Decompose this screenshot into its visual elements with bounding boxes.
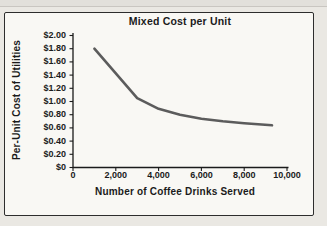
y-tick-label: $1.60 [28, 56, 66, 67]
y-tick-label: $2.00 [28, 30, 66, 41]
x-tick-label: 6,000 [179, 170, 223, 181]
x-tick-label: 10,000 [265, 170, 309, 181]
x-tick-label: 2,000 [94, 170, 138, 181]
chart-title: Mixed Cost per Unit [73, 15, 287, 27]
y-axis-title: Per-Unit Cost of Utilities [11, 30, 25, 170]
y-tick-label: $1.40 [28, 70, 66, 81]
y-tick-label: $1.20 [28, 83, 66, 94]
x-tick-label: 0 [51, 170, 95, 181]
y-tick-label: $0.20 [28, 149, 66, 160]
y-tick-label: $1.80 [28, 43, 66, 54]
x-tick-label: 4,000 [137, 170, 181, 181]
x-tick-label: 8,000 [222, 170, 266, 181]
y-tick-label: $0.40 [28, 136, 66, 147]
page-fold-edge [0, 0, 327, 7]
scanned-page: Mixed Cost per Unit Per-Unit Cost of Uti… [0, 0, 327, 226]
y-tick-label: $0.80 [28, 109, 66, 120]
y-tick-label: $0.60 [28, 122, 66, 133]
x-axis-title: Number of Coffee Drinks Served [60, 186, 290, 197]
y-tick-label: $1.00 [28, 96, 66, 107]
